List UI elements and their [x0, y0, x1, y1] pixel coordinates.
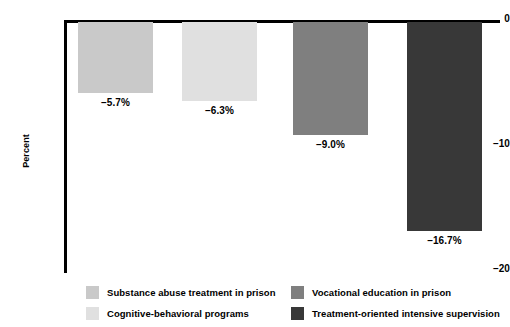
legend-swatch-icon	[86, 286, 99, 299]
legend-item-label: Substance abuse treatment in prison	[107, 288, 276, 298]
legend: Substance abuse treatment in prison Voca…	[86, 282, 496, 324]
bar-2	[293, 22, 368, 135]
legend-item-substance-abuse-treatment: Substance abuse treatment in prison	[86, 286, 291, 299]
legend-item-label: Vocational education in prison	[312, 288, 451, 298]
legend-item-vocational-education: Vocational education in prison	[291, 286, 496, 299]
bar-value-label-0: –5.7%	[78, 97, 153, 108]
legend-item-treatment-oriented-supervision: Treatment-oriented intensive supervision	[291, 307, 496, 320]
legend-item-label: Cognitive-behavioral programs	[107, 309, 249, 319]
legend-swatch-icon	[291, 286, 304, 299]
legend-item-label: Treatment-oriented intensive supervision	[312, 309, 500, 319]
bar-3	[407, 22, 482, 231]
bar-1	[182, 22, 257, 101]
bar-value-label-1: –6.3%	[182, 105, 257, 116]
plot-area: –5.7% –6.3% –9.0% –16.7%	[67, 22, 500, 272]
y-axis-title: Percent	[21, 111, 31, 191]
legend-item-cognitive-behavioral-programs: Cognitive-behavioral programs	[86, 307, 291, 320]
bar-chart: Percent 0 –10 –20 –5.7% –6.3% –9.0% –16.…	[0, 0, 510, 327]
bar-0	[78, 22, 153, 93]
bar-value-label-3: –16.7%	[407, 235, 482, 246]
bar-value-label-2: –9.0%	[293, 139, 368, 150]
legend-swatch-icon	[291, 307, 304, 320]
legend-swatch-icon	[86, 307, 99, 320]
